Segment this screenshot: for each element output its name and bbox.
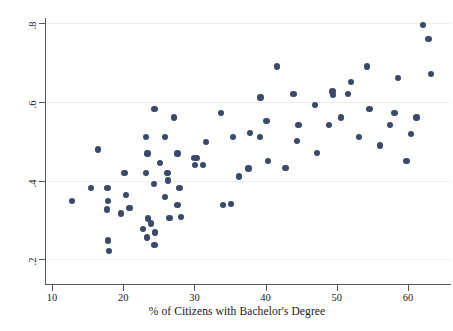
scatter-point — [236, 173, 242, 179]
scatter-point — [140, 226, 146, 232]
scatter-point — [104, 185, 110, 191]
y-tick-label-2: .6 — [27, 100, 38, 130]
scatter-point — [157, 160, 163, 166]
scatter-point — [123, 192, 129, 198]
scatter-point — [366, 106, 372, 112]
scatter-point — [105, 198, 111, 204]
x-tick-0 — [52, 285, 53, 291]
scatter-point — [413, 114, 419, 120]
x-tick-1 — [123, 285, 124, 291]
scatter-point — [171, 114, 177, 120]
y-tick-label-0: .2 — [27, 258, 38, 288]
scatter-point — [176, 185, 182, 191]
x-tick-3 — [266, 285, 267, 291]
scatter-point — [314, 150, 320, 156]
scatter-point — [425, 36, 431, 42]
y-tick-label-1: .4 — [27, 179, 38, 209]
scatter-point — [178, 214, 184, 220]
x-tick-5 — [408, 285, 409, 291]
scatter-point — [338, 114, 344, 120]
x-tick-label-1: 20 — [108, 292, 138, 303]
scatter-point — [230, 134, 236, 140]
scatter-point — [143, 170, 149, 176]
scatter-point — [330, 92, 336, 98]
scatter-point — [193, 155, 199, 161]
scatter-point — [345, 91, 351, 97]
gridline-y-1 — [46, 181, 451, 182]
scatter-point — [377, 142, 383, 148]
x-tick-label-0: 10 — [37, 292, 67, 303]
scatter-point — [218, 110, 224, 116]
scatter-point — [143, 134, 149, 140]
scatter-point — [126, 205, 132, 211]
x-tick-label-3: 40 — [251, 292, 281, 303]
scatter-point — [247, 130, 253, 136]
scatter-point — [245, 165, 251, 171]
x-tick-label-5: 60 — [393, 292, 423, 303]
scatter-point — [387, 122, 393, 128]
scatter-point — [282, 165, 288, 171]
scatter-point — [166, 215, 172, 221]
x-tick-2 — [194, 285, 195, 291]
scatter-point — [420, 22, 426, 28]
y-tick-3 — [39, 23, 45, 24]
scatter-point — [104, 206, 110, 212]
scatter-point — [162, 194, 168, 200]
scatter-point — [118, 210, 124, 216]
y-tick-2 — [39, 102, 45, 103]
y-tick-1 — [39, 181, 45, 182]
scatter-point — [263, 118, 269, 124]
y-axis-title: Share Voted Yes for Prop. 122 — [0, 0, 22, 331]
scatter-point — [408, 131, 414, 137]
scatter-point — [162, 134, 168, 140]
x-tick-label-2: 30 — [179, 292, 209, 303]
scatter-point — [148, 220, 154, 226]
scatter-point — [326, 122, 332, 128]
scatter-point — [105, 237, 111, 243]
scatter-point — [121, 170, 127, 176]
scatter-point — [257, 134, 263, 140]
scatter-point — [257, 94, 263, 100]
scatter-point — [290, 91, 296, 97]
y-tick-label-3: .8 — [27, 22, 38, 52]
scatter-point — [152, 229, 158, 235]
scatter-point — [295, 122, 301, 128]
scatter-point — [395, 75, 401, 81]
scatter-point — [88, 185, 94, 191]
scatter-point — [356, 134, 362, 140]
y-axis-line — [45, 18, 46, 285]
scatter-point — [144, 150, 150, 156]
scatter-point — [348, 79, 354, 85]
scatter-point — [265, 158, 271, 164]
scatter-point — [294, 138, 300, 144]
scatter-point — [274, 63, 280, 69]
scatter-point — [165, 177, 171, 183]
scatter-point — [174, 202, 180, 208]
scatter-point — [151, 181, 157, 187]
gridline-y-0 — [46, 259, 451, 260]
scatter-point — [391, 110, 397, 116]
scatter-point — [144, 234, 150, 240]
scatter-point — [106, 248, 112, 254]
scatter-point — [220, 202, 226, 208]
scatter-point — [200, 162, 206, 168]
scatter-point — [228, 201, 234, 207]
scatter-point — [69, 198, 75, 204]
scatter-point — [174, 150, 180, 156]
scatter-point — [164, 170, 170, 176]
scatter-point — [428, 71, 434, 77]
gridline-y-2 — [46, 102, 451, 103]
scatter-plot-figure: Share Voted Yes for Prop. 122 % of Citiz… — [0, 0, 453, 331]
x-tick-4 — [337, 285, 338, 291]
scatter-point — [151, 106, 157, 112]
scatter-point — [203, 139, 209, 145]
scatter-point — [151, 242, 157, 248]
scatter-point — [95, 146, 101, 152]
scatter-point — [364, 63, 370, 69]
x-tick-label-4: 50 — [322, 292, 352, 303]
x-axis-line — [45, 284, 451, 285]
scatter-point — [312, 102, 318, 108]
y-tick-0 — [39, 259, 45, 260]
x-axis-title: % of Citizens with Bachelor's Degree — [52, 305, 422, 317]
scatter-point — [192, 162, 198, 168]
